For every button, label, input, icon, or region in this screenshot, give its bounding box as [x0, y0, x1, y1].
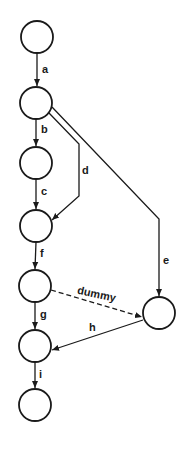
edge-d	[49, 113, 79, 220]
node-1	[21, 21, 53, 53]
label-g: g	[40, 308, 47, 320]
label-f: f	[40, 247, 44, 259]
edge-f	[35, 242, 36, 269]
label-d: d	[82, 164, 89, 176]
node-5	[19, 270, 51, 302]
label-i: i	[39, 368, 42, 380]
edges	[35, 53, 159, 388]
edge-e	[52, 107, 159, 296]
label-h: h	[89, 321, 96, 333]
node-8	[143, 297, 175, 329]
label-c: c	[41, 185, 47, 197]
diagram-svg: a b c d e f dummy g h i	[0, 0, 188, 452]
node-4	[20, 210, 52, 242]
label-dummy: dummy	[76, 284, 118, 304]
label-b: b	[41, 123, 48, 135]
nodes	[19, 21, 175, 421]
node-6	[19, 330, 51, 362]
node-3	[20, 147, 52, 179]
node-2	[20, 87, 52, 119]
label-a: a	[42, 63, 49, 75]
edge-h	[52, 320, 143, 350]
label-e: e	[163, 254, 169, 266]
node-7	[19, 389, 51, 421]
flow-graph-diagram: a b c d e f dummy g h i	[0, 0, 188, 452]
